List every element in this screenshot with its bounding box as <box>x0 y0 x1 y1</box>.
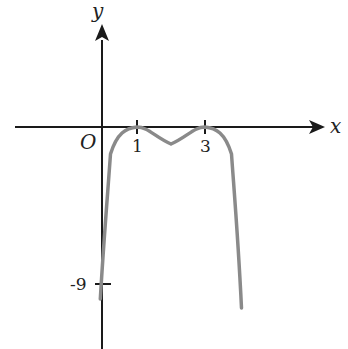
y-axis-arrow-icon <box>95 24 109 41</box>
function-curve <box>100 127 241 308</box>
origin-label: O <box>80 130 96 154</box>
y-axis-label: y <box>91 0 104 23</box>
y-tick-label-neg9: -9 <box>70 274 87 294</box>
x-tick-label-1: 1 <box>132 136 143 156</box>
x-tick-label-3: 3 <box>200 136 211 156</box>
x-axis-label: x <box>330 114 341 138</box>
graph-plot: y x O 1 3 -9 <box>0 0 348 349</box>
